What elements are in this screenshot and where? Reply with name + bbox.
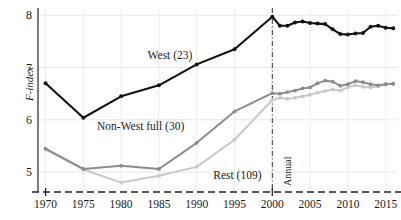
series-point [278,92,282,96]
x-tick-label-2000: 2000 [261,198,284,210]
series-point [293,21,297,25]
series-point [323,89,327,93]
x-tick-label-2005: 2005 [299,198,322,210]
series-point [286,90,290,94]
x-tick-label-1975: 1975 [72,198,95,210]
series-point [369,82,373,86]
x-tick-label-1985: 1985 [147,198,170,210]
series-point [376,24,380,28]
series-point [157,83,161,87]
series-point [301,94,305,98]
x-tick-label-1995: 1995 [223,198,246,210]
series-point [233,138,237,142]
series-point [195,141,199,145]
series-point [323,79,327,83]
series-point [361,31,365,35]
series-point [119,94,123,98]
series-point [81,116,85,120]
series-point [233,47,237,51]
series-point [346,33,350,37]
series-point [157,174,161,178]
series-point [285,24,289,28]
series-point [233,110,237,114]
series-point [331,88,335,92]
series-point [286,97,290,101]
series-point [308,93,312,97]
series-point [119,164,123,168]
x-tick-label-2010: 2010 [336,198,359,210]
series-point [278,96,282,100]
series-point [270,91,274,95]
series-point [44,147,48,151]
series-point [331,80,335,84]
series-label-west-23: West (23) [148,49,193,61]
series-point [361,85,365,89]
plot-area [0,0,401,220]
series-point [391,82,395,86]
series-point [270,98,274,102]
series-point [369,25,373,29]
series-point [119,181,123,185]
series-point [278,24,282,28]
series-point [354,79,358,83]
x-tick-label-1990: 1990 [185,198,208,210]
series-point [293,96,297,100]
series-point [316,22,320,26]
x-tick-label-1970: 1970 [34,198,57,210]
series-point [195,165,199,169]
series-label-non-west-full-30: Non-West full (30) [97,120,184,132]
series-point [354,83,358,87]
series-point [81,167,85,171]
series-point [308,86,312,90]
series-point [316,81,320,85]
series-point [308,21,312,25]
series-point [384,82,388,86]
series-label-rest-109: Rest (109) [213,169,261,181]
series-point [338,32,342,36]
x-tick-label-2015: 2015 [374,198,397,210]
series-point [361,80,365,84]
series-point [353,32,357,36]
series-point [338,89,342,93]
series-point [301,87,305,91]
series-point [316,91,320,95]
series-point [376,83,380,87]
x-tick-label-1980: 1980 [110,198,133,210]
series-point [301,20,305,24]
series-point [384,26,388,30]
series-point [323,22,327,26]
annual-divider-label: Annual [282,157,293,186]
series-point [195,62,199,66]
series-point [44,81,48,85]
series-point [331,27,335,31]
series-point [157,167,161,171]
series-point [270,15,274,19]
f-index-line-chart: F-index 5678 197019751980198519901995200… [0,0,401,220]
series-point [293,89,297,93]
series-point [338,84,342,88]
series-point [346,82,350,86]
series-point [391,26,395,30]
